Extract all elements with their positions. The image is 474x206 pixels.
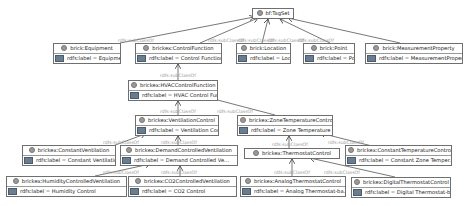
literal-icon (8, 188, 17, 195)
edge-label: rdfs:subClassOf (161, 170, 197, 175)
class-icon (240, 117, 246, 123)
node-label: rdfs:label = Zone Temperature Con... (251, 126, 332, 135)
node-label: rdfs:label = Demand Controlled Ve... (134, 156, 229, 165)
edge-label: rdfs:subClassOf (324, 170, 360, 175)
node-name: brickex:DemandControlledVentilation (135, 147, 232, 153)
node-name: brickex:VentilationControl (148, 117, 215, 123)
node-label: rdfs:label = Ventilation Control (149, 126, 218, 135)
literal-icon (55, 55, 64, 62)
node-name: brick:Point (320, 45, 347, 51)
literal-icon (367, 55, 376, 62)
node-label: rdfs:label = Location (250, 54, 290, 63)
node-constantventilation[interactable]: brickex:ConstantVentilation rdfs:label =… (22, 145, 116, 166)
edge-label: rdfs:subClassOf (272, 142, 308, 147)
class-icon (131, 82, 137, 88)
class-icon (135, 178, 141, 184)
node-zonetemperaturecontrol[interactable]: brickex:ZoneTemperatureControl rdfs:labe… (237, 115, 333, 136)
literal-icon (347, 157, 356, 164)
literal-icon (130, 188, 139, 195)
node-name: brickex:DigitalThermostatControl (363, 179, 449, 185)
edge-label: rdfs:subClassOf (103, 170, 139, 175)
node-co2controlledventilation[interactable]: brickex:CO2ControlledVentilation rdfs:la… (128, 176, 237, 197)
node-label: rdfs:label = Control Function (149, 54, 221, 63)
node-controlfunction[interactable]: brickex:ControlFunction rdfs:label = Con… (135, 43, 222, 64)
literal-icon (122, 157, 131, 164)
literal-icon (238, 55, 247, 62)
node-point[interactable]: brick:Point rdfs:label = Point (303, 43, 355, 64)
literal-icon (130, 92, 139, 99)
diagram-canvas: rdfs:subClassOf rdfs:subClassOf rdfs:sub… (0, 0, 474, 206)
node-equipment[interactable]: brick:Equipment rdfs:label = Equipment (53, 43, 121, 64)
node-label: rdfs:label = Analog Thermostat-ba... (254, 187, 345, 196)
node-location[interactable]: brick:Location rdfs:label = Location (236, 43, 291, 64)
class-icon (245, 178, 251, 184)
node-name: brickex:ControlFunction (152, 45, 213, 51)
node-tagset[interactable]: bf:TagSet (252, 8, 294, 19)
node-name: brickex:HumidityControlledVentilation (22, 178, 120, 184)
node-label: rdfs:label = Constant Ventilation (36, 156, 115, 165)
node-measurementproperty[interactable]: brick:MeasurementProperty rdfs:label = M… (365, 43, 463, 64)
node-label: rdfs:label = CO2 Control (142, 187, 205, 196)
class-icon (61, 45, 67, 51)
class-icon (354, 179, 360, 185)
literal-icon (137, 55, 146, 62)
node-label: rdfs:label = HVAC Control Functio... (142, 91, 217, 100)
class-icon (13, 178, 19, 184)
class-icon (373, 45, 379, 51)
node-label: rdfs:label = Point (317, 54, 354, 63)
literal-icon (137, 127, 146, 134)
node-name: brickex:ConstantTemperatureControl (357, 147, 451, 153)
node-name: brickex:CO2ControlledVentilation (144, 178, 230, 184)
literal-icon (24, 157, 33, 164)
class-icon (139, 117, 145, 123)
class-icon (143, 45, 149, 51)
node-name: brick:Equipment (70, 45, 113, 51)
node-label: rdfs:label = Digital Thermostat-b... (365, 188, 450, 197)
literal-icon (242, 188, 251, 195)
literal-icon (305, 55, 314, 62)
class-icon (241, 45, 247, 51)
literal-icon (239, 127, 248, 134)
node-name: brickex:ConstantVentilation (38, 147, 109, 153)
edge-label: rdfs:subClassOf (160, 73, 196, 78)
node-label: rdfs:label = Constant Zone Temper... (359, 156, 451, 165)
class-icon (29, 147, 35, 153)
edge-label: rdfs:subClassOf (274, 170, 310, 175)
edge-label: rdfs:subClassOf (217, 109, 253, 114)
node-label: rdfs:label = Humidity Control (20, 187, 96, 196)
edge-label: rdfs:subClassOf (160, 109, 196, 114)
literal-icon (353, 189, 362, 196)
node-name: brickex:HVACControlFunction (140, 82, 215, 88)
node-name: brickex:ThermostatControl (262, 150, 331, 156)
node-humiditycontrolledventilation[interactable]: brickex:HumidityControlledVentilation rd… (6, 176, 127, 197)
class-icon (126, 147, 132, 153)
node-demandcontrolledventilation[interactable]: brickex:DemandControlledVentilation rdfs… (120, 145, 238, 166)
node-thermostatcontrol[interactable]: brickex:ThermostatControl (244, 148, 340, 159)
class-icon (311, 45, 317, 51)
class-icon (253, 150, 259, 156)
node-label: rdfs:label = MeasurementProperty (379, 54, 462, 63)
node-analogthermostatcontrol[interactable]: brickex:AnalogThermostatControl rdfs:lab… (240, 176, 346, 197)
class-icon (348, 147, 354, 153)
node-ventilationcontrol[interactable]: brickex:VentilationControl rdfs:label = … (135, 115, 219, 136)
node-constanttemperaturecontrol[interactable]: brickex:ConstantTemperatureControl rdfs:… (345, 145, 452, 166)
node-name: brickex:ZoneTemperatureControl (249, 117, 332, 123)
node-name: brickex:AnalogThermostatControl (254, 178, 341, 184)
node-hvaccontrolfunction[interactable]: brickex:HVACControlFunction rdfs:label =… (128, 80, 218, 101)
node-digitalthermostatcontrol[interactable]: brickex:DigitalThermostatControl rdfs:la… (351, 177, 451, 198)
node-name: bf:TagSet (266, 10, 290, 16)
node-label: rdfs:label = Equipment (67, 54, 120, 63)
node-name: brick:Location (250, 45, 286, 51)
node-name: brick:MeasurementProperty (382, 45, 454, 51)
class-icon (257, 10, 263, 16)
